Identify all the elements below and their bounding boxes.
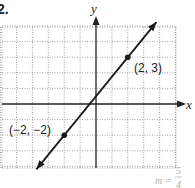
- y-axis-label: y: [89, 1, 97, 16]
- point-label-neg2-neg2: (−2, −2): [9, 123, 51, 137]
- y-axis-arrow-icon: [93, 16, 100, 25]
- slope-numerator: 5: [176, 165, 181, 176]
- point-label-2-3: (2, 3): [134, 61, 162, 75]
- slope-denominator: 4: [176, 179, 181, 188]
- coordinate-graph: x y (2, 3) (−2, −2) m = 5 4: [0, 0, 195, 188]
- x-axis-label: x: [185, 97, 192, 112]
- point-2-3: [125, 54, 131, 60]
- grid: [1, 26, 176, 168]
- x-axis-arrow-icon: [177, 101, 186, 108]
- point-neg2-neg2: [61, 132, 67, 138]
- slope-label: m =: [155, 175, 171, 186]
